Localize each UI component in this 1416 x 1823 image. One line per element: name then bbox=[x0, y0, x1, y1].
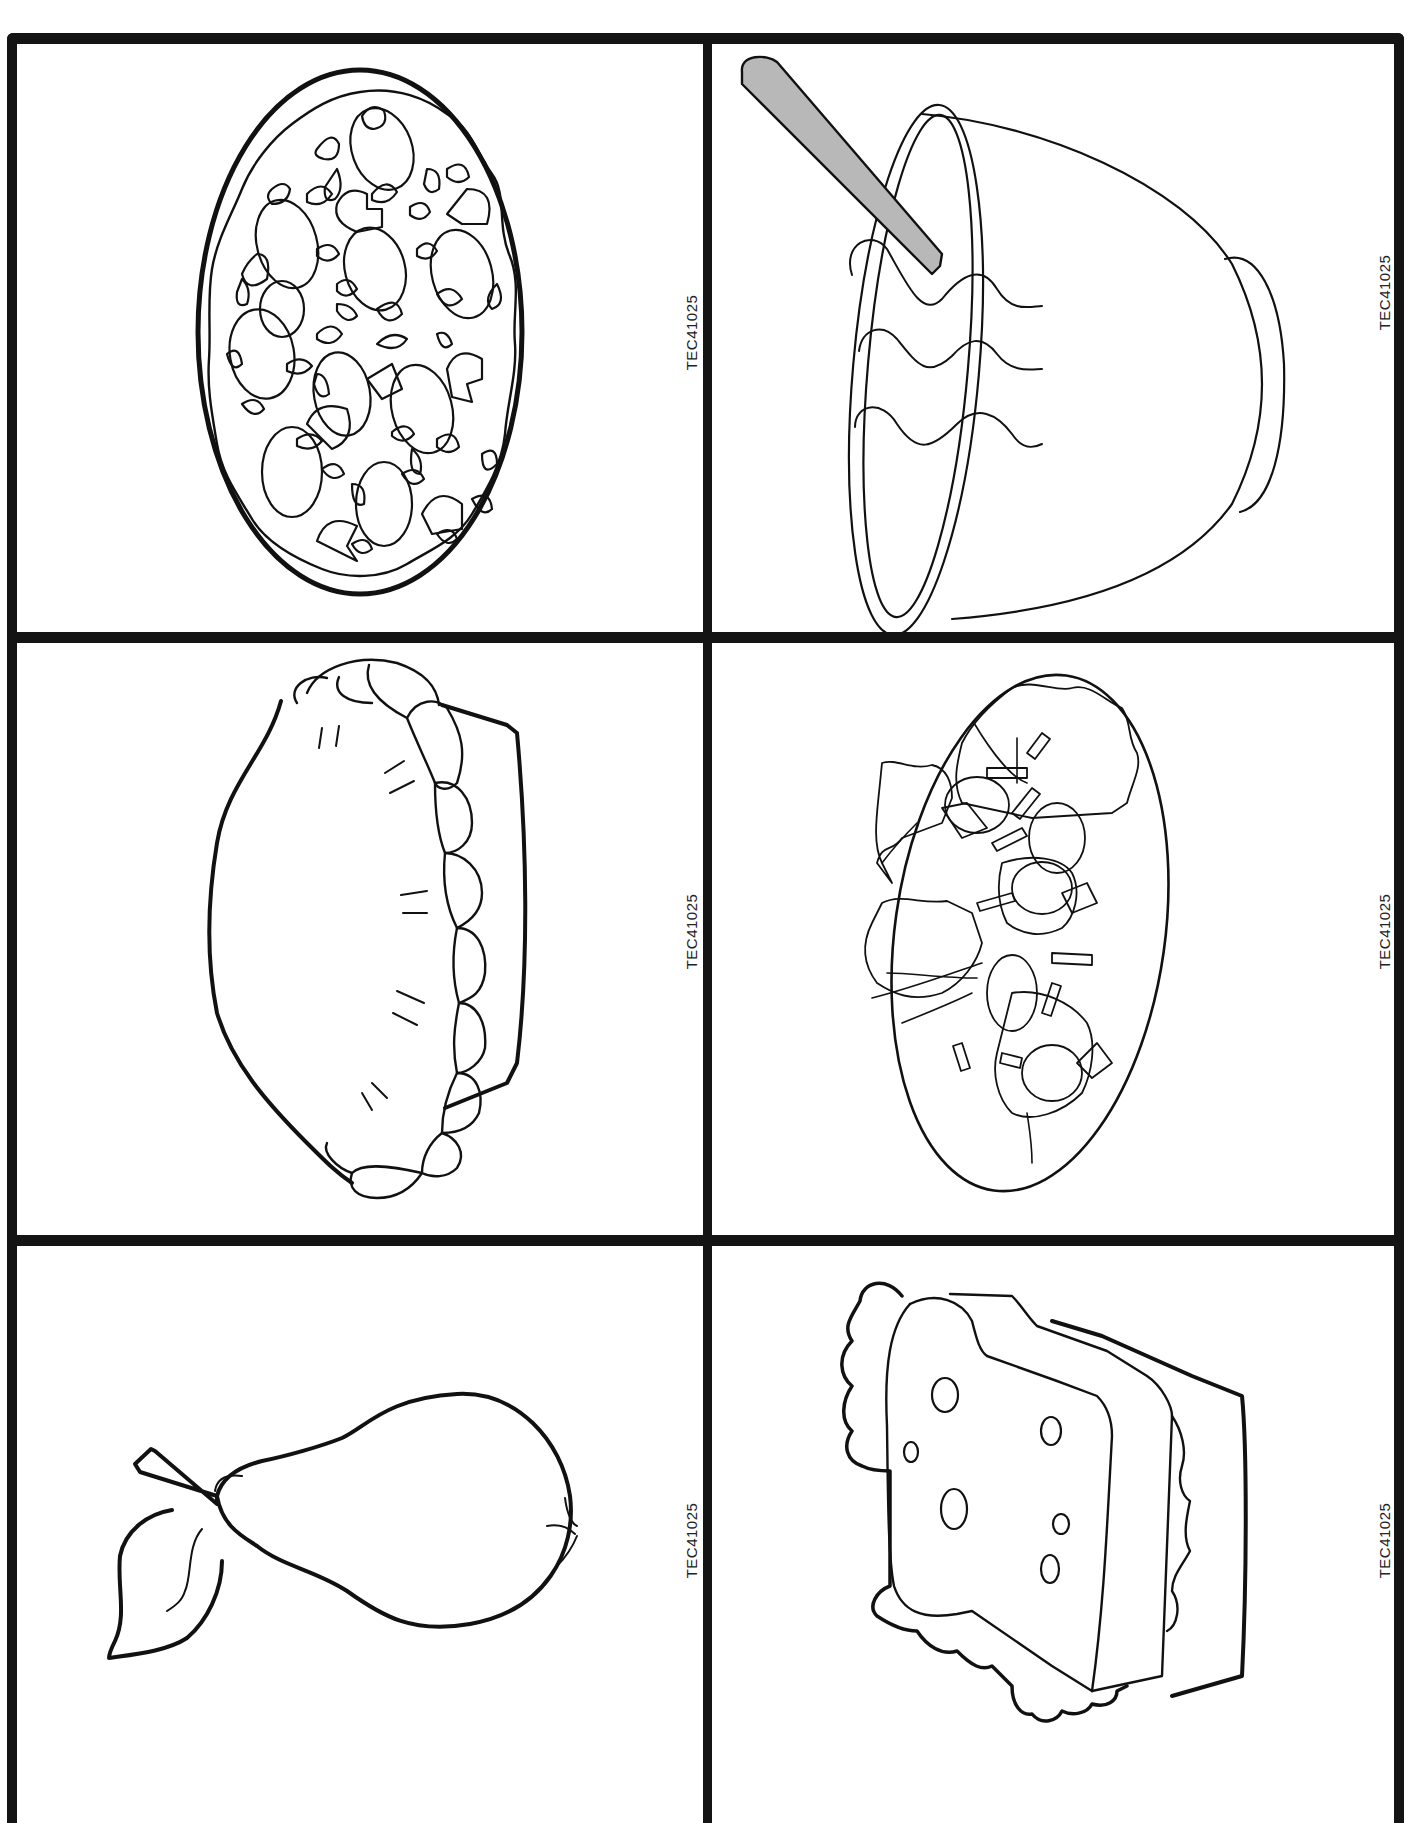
pie-vent-marks bbox=[319, 726, 427, 1110]
grid-border-left bbox=[7, 33, 17, 1823]
card-soup: TEC41025 bbox=[712, 44, 1394, 632]
pizza-icon bbox=[17, 44, 703, 632]
salad-icon bbox=[712, 643, 1394, 1235]
lettuce-leaves bbox=[865, 684, 1138, 1116]
mushrooms-and-carrots bbox=[942, 733, 1112, 1101]
soup-bowl-icon bbox=[712, 44, 1394, 632]
pie-icon bbox=[17, 643, 703, 1235]
sandwich-icon bbox=[712, 1246, 1394, 1823]
grid-divider-vertical bbox=[703, 33, 712, 1823]
worksheet-page: TEC41025 TEC41025 bbox=[0, 0, 1416, 1823]
pear-icon bbox=[17, 1246, 703, 1823]
grid-divider-row-2 bbox=[7, 1235, 1404, 1246]
card-code-label: TEC41025 bbox=[683, 273, 700, 393]
cheese-holes bbox=[904, 1378, 1069, 1583]
card-sandwich: TEC41025 bbox=[712, 1246, 1394, 1823]
spoon-handle bbox=[742, 57, 942, 274]
grid-divider-row-1 bbox=[7, 632, 1404, 643]
card-code-label: TEC41025 bbox=[1376, 872, 1393, 992]
card-code-label: TEC41025 bbox=[1376, 1481, 1393, 1601]
pear-veins bbox=[167, 1476, 577, 1611]
card-code-label: TEC41025 bbox=[683, 1481, 700, 1601]
card-code-label: TEC41025 bbox=[1376, 233, 1393, 353]
card-code-label: TEC41025 bbox=[683, 872, 700, 992]
card-pear: TEC41025 bbox=[17, 1246, 703, 1823]
card-salad: TEC41025 bbox=[712, 643, 1394, 1235]
grid-border-right bbox=[1394, 33, 1404, 1823]
card-pie: TEC41025 bbox=[17, 643, 703, 1235]
card-pizza: TEC41025 bbox=[17, 44, 703, 632]
bowl-outline bbox=[830, 100, 1284, 632]
